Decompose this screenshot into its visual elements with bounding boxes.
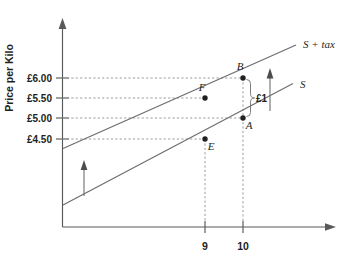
point-label-b: B — [237, 60, 244, 72]
supply-tax-diagram: £6.00 £5.50 £5.00 £4.50 9 10 Price per K… — [0, 0, 342, 261]
shift-arrow-left — [81, 160, 88, 196]
tax-gap-label: £1 — [256, 93, 268, 104]
point-label-a: A — [245, 119, 253, 131]
price-tick-label-550: £5.50 — [27, 93, 52, 104]
quantity-tick-label-10: 10 — [237, 240, 249, 252]
shift-arrow-right — [267, 68, 274, 111]
point-marker-f — [202, 95, 207, 100]
quantity-tick-label-9: 9 — [202, 240, 208, 252]
point-marker-b — [240, 75, 245, 80]
tax-wedge-brace — [247, 80, 255, 117]
price-tick-label-600: £6.00 — [27, 73, 52, 84]
shift-arrow-left-head — [81, 160, 88, 170]
price-tick-label-450: £4.50 — [27, 134, 52, 145]
point-label-f: F — [198, 81, 206, 93]
x-axis-arrowhead — [325, 223, 336, 231]
supply-curves — [63, 45, 296, 205]
y-axis-title: Price per Kilo — [3, 44, 15, 112]
point-label-e: E — [207, 140, 215, 152]
curve-label-s: S — [300, 78, 306, 90]
data-points — [202, 75, 245, 141]
y-axis-arrowhead — [59, 18, 67, 29]
axes-group — [59, 18, 336, 231]
shift-arrow-right-head — [267, 68, 274, 79]
price-tick-label-500: £5.00 — [27, 113, 52, 124]
tax-brace-path — [247, 80, 255, 117]
guide-lines — [63, 78, 244, 227]
chart-canvas: £6.00 £5.50 £5.00 £4.50 9 10 Price per K… — [0, 0, 342, 261]
curve-label-s-plus-tax: S + tax — [303, 38, 335, 50]
